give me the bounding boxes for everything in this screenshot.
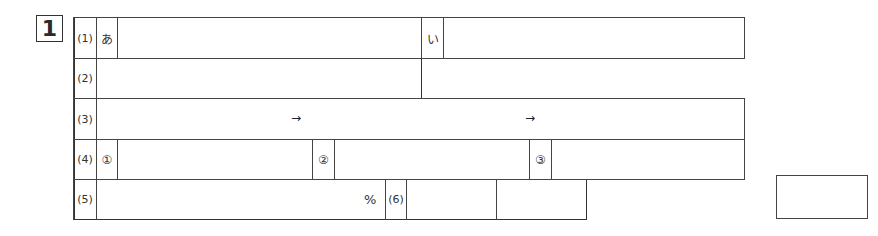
answer-2[interactable] xyxy=(96,58,422,99)
percent-unit: % xyxy=(364,192,376,207)
answer-1-a[interactable] xyxy=(117,17,422,59)
row-2-label: (2) xyxy=(73,58,97,99)
answer-1-i[interactable] xyxy=(443,17,745,59)
answer-6-a[interactable] xyxy=(406,179,497,220)
row-5-label: (5) xyxy=(73,179,97,220)
answer-6-b[interactable] xyxy=(496,179,587,220)
answer-3[interactable] xyxy=(96,98,745,140)
arrow-icon: → xyxy=(525,112,535,124)
question-number-box: 1 xyxy=(36,15,63,42)
row-1-label: (1) xyxy=(73,17,97,59)
arrow-icon: → xyxy=(291,112,301,124)
row-6-label: (6) xyxy=(385,179,407,220)
answer-4-2[interactable] xyxy=(334,139,530,180)
answer-4-1[interactable] xyxy=(117,139,313,180)
row-4-label: (4) xyxy=(73,139,97,180)
row-3-label: (3) xyxy=(73,98,97,140)
answer-5[interactable] xyxy=(96,179,386,220)
sub-label-2: ② xyxy=(312,139,335,180)
answer-4-3[interactable] xyxy=(551,139,745,180)
sub-label-i: い xyxy=(421,17,444,59)
sub-label-3: ③ xyxy=(529,139,552,180)
score-box[interactable] xyxy=(776,175,868,219)
sub-label-1: ① xyxy=(96,139,118,180)
sub-label-a: あ xyxy=(96,17,118,59)
